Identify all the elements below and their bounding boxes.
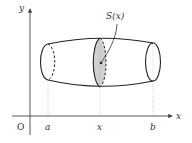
left-end-back — [48, 44, 55, 80]
x-axis-label: x — [176, 111, 181, 121]
cross-section-center-dot — [100, 62, 103, 65]
tick-label-a: a — [45, 122, 50, 132]
cross-section-label: S(x) — [106, 11, 125, 21]
y-axis-label: y — [18, 3, 25, 13]
solid-cross-section-diagram: S(x) y x O a x b — [0, 0, 192, 143]
origin-label: O — [17, 122, 24, 132]
tick-label-b: b — [150, 122, 156, 132]
tick-label-x: x — [97, 122, 102, 132]
left-end-front — [41, 44, 49, 80]
